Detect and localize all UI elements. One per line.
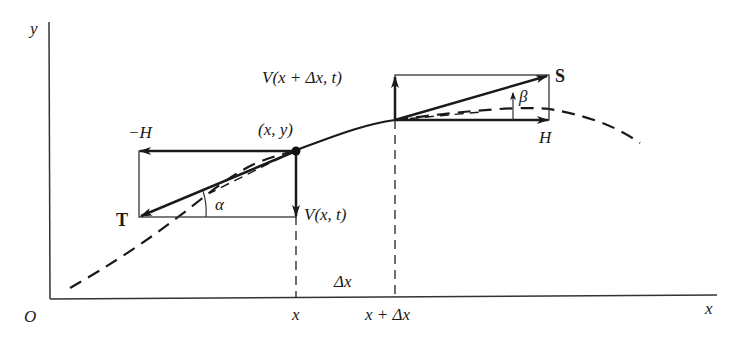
x-tick-label: x <box>291 305 300 324</box>
neg-h-label: −H <box>128 123 153 142</box>
alpha-arc <box>203 191 206 217</box>
string-curve-solid <box>296 120 395 150</box>
origin-label: O <box>24 307 36 326</box>
string-curve-left-dashed <box>70 150 296 288</box>
h-label: H <box>538 128 553 147</box>
string-force-diagram: y x O x x + Δx Δx (x, y) T −H V(x, t) α … <box>0 0 746 340</box>
delta-x-label: Δx <box>333 272 352 291</box>
alpha-label: α <box>215 195 225 214</box>
v-x-t-label: V(x, t) <box>304 205 347 224</box>
y-axis-label: y <box>28 19 38 38</box>
point-coord-label: (x, y) <box>258 120 293 139</box>
tension-t-label: T <box>116 210 128 230</box>
string-curve-right-dashed <box>395 108 640 143</box>
x-plus-dx-tick-label: x + Δx <box>364 305 410 324</box>
v-x-plus-dx-t-label: V(x + Δx, t) <box>262 68 342 87</box>
beta-label: β <box>518 87 528 106</box>
x-axis-label: x <box>704 299 713 318</box>
y-axis <box>49 22 50 299</box>
x-axis <box>50 295 717 299</box>
point-x-y <box>292 147 301 156</box>
tension-s-label: S <box>555 66 565 86</box>
